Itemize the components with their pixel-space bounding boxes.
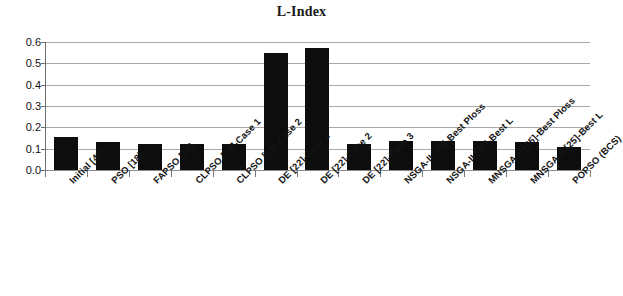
bar[interactable] bbox=[54, 137, 78, 170]
y-tick-label: 0.6 bbox=[1, 37, 41, 47]
y-tick-label: 0.4 bbox=[1, 80, 41, 90]
y-axis-tick-labels: 0.60.50.40.30.20.10.0 bbox=[0, 0, 41, 296]
y-tick-label: 0.3 bbox=[1, 101, 41, 111]
x-tick-mark bbox=[45, 170, 46, 177]
x-axis-category-labels: Initial [43]PSO [18]FAPSO [18]CLPSO [19]… bbox=[45, 178, 591, 296]
y-tick-label: 0.2 bbox=[1, 122, 41, 132]
bar-slot bbox=[45, 42, 87, 170]
y-tick-label: 0.0 bbox=[1, 165, 41, 175]
y-tick-label: 0.1 bbox=[1, 144, 41, 154]
chart-title: L-Index bbox=[0, 4, 603, 20]
y-tick-label: 0.5 bbox=[1, 58, 41, 68]
